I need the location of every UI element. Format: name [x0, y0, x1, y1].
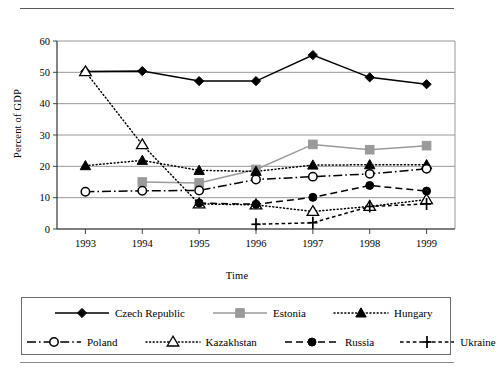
datapoint-czech-republic-1998 — [365, 73, 374, 82]
legend-label-ukraine: Ukraine — [460, 336, 495, 348]
legend-swatch-poland — [26, 334, 82, 350]
top-horizontal-rule — [20, 8, 454, 9]
legend-item-ukraine[interactable]: Ukraine — [399, 334, 498, 350]
datapoint-estonia-1994 — [138, 178, 147, 187]
xtick-label-1993: 1993 — [75, 238, 96, 249]
x-axis-title: Time — [0, 270, 474, 281]
legend-marker-poland — [50, 337, 58, 345]
datapoint-poland-1998 — [366, 170, 374, 178]
datapoint-russia-1996 — [252, 200, 260, 208]
datapoint-russia-1997 — [309, 193, 317, 201]
datapoint-estonia-1998 — [365, 145, 374, 154]
line-chart-svg: 0102030405060199319941995199619971998199… — [0, 14, 474, 264]
datapoint-russia-1995 — [195, 199, 203, 207]
legend-marker-estonia — [236, 308, 245, 317]
datapoint-poland-1997 — [309, 172, 317, 180]
datapoint-hungary-1997 — [308, 160, 318, 169]
ytick-label-10: 10 — [40, 192, 51, 203]
legend-item-estonia[interactable]: Estonia — [212, 305, 309, 321]
legend-label-kazakhstan: Kazakhstan — [206, 336, 257, 348]
datapoint-poland-1996 — [252, 175, 260, 183]
legend-label-czech-republic: Czech Republic — [115, 307, 185, 319]
legend-swatch-hungary — [333, 305, 389, 321]
datapoint-poland-1999 — [422, 165, 430, 173]
legend-row-1: Czech RepublicEstoniaHungary — [22, 298, 450, 327]
legend-swatch-kazakhstan — [145, 334, 201, 350]
legend-label-estonia: Estonia — [273, 307, 306, 319]
plot-area: 0102030405060199319941995199619971998199… — [0, 14, 474, 264]
legend-row-2: PolandKazakhstanRussiaUkraine — [22, 327, 450, 356]
bottom-horizontal-rule — [20, 362, 454, 363]
datapoint-poland-1995 — [195, 186, 203, 194]
y-axis-title: Percent of GDP — [12, 79, 23, 169]
series-line-ukraine — [256, 204, 427, 224]
legend-swatch-russia — [284, 334, 340, 350]
datapoint-poland-1994 — [138, 187, 146, 195]
xtick-label-1995: 1995 — [189, 238, 210, 249]
ytick-label-50: 50 — [40, 67, 51, 78]
legend-item-kazakhstan[interactable]: Kazakhstan — [145, 334, 260, 350]
datapoint-russia-1998 — [366, 181, 374, 189]
xtick-label-1994: 1994 — [132, 238, 154, 249]
datapoint-estonia-1997 — [309, 140, 318, 149]
xtick-label-1997: 1997 — [302, 238, 323, 249]
ytick-label-30: 30 — [40, 130, 51, 141]
ytick-label-60: 60 — [40, 36, 51, 47]
legend-marker-russia — [308, 338, 316, 346]
datapoint-estonia-1999 — [422, 141, 431, 150]
datapoint-czech-republic-1996 — [251, 77, 260, 86]
xtick-label-1998: 1998 — [359, 238, 380, 249]
chart-legend: Czech RepublicEstoniaHungary PolandKazak… — [21, 297, 451, 355]
legend-marker-czech-republic — [77, 308, 86, 317]
datapoint-czech-republic-1995 — [195, 77, 204, 86]
legend-item-poland[interactable]: Poland — [26, 334, 121, 350]
legend-label-poland: Poland — [87, 336, 118, 348]
datapoint-czech-republic-1999 — [422, 80, 431, 89]
legend-swatch-ukraine — [399, 334, 455, 350]
datapoint-poland-1993 — [81, 188, 89, 196]
legend-item-czech-republic[interactable]: Czech Republic — [54, 305, 188, 321]
legend-label-russia: Russia — [345, 336, 374, 348]
legend-marker-hungary — [356, 307, 366, 316]
legend-marker-kazakhstan — [167, 336, 179, 346]
legend-label-hungary: Hungary — [394, 307, 433, 319]
legend-item-russia[interactable]: Russia — [284, 334, 377, 350]
ytick-label-20: 20 — [40, 161, 51, 172]
legend-item-hungary[interactable]: Hungary — [333, 305, 436, 321]
datapoint-russia-1999 — [423, 187, 431, 195]
datapoint-hungary-1994 — [137, 155, 147, 164]
series-line-estonia — [142, 144, 426, 183]
xtick-label-1996: 1996 — [246, 238, 267, 249]
xtick-label-1999: 1999 — [416, 238, 437, 249]
datapoint-czech-republic-1994 — [138, 66, 147, 75]
ytick-label-0: 0 — [45, 224, 50, 235]
chart-figure: 0102030405060199319941995199619971998199… — [0, 14, 474, 354]
legend-swatch-estonia — [212, 305, 268, 321]
datapoint-czech-republic-1997 — [308, 51, 317, 60]
legend-swatch-czech-republic — [54, 305, 110, 321]
ytick-label-40: 40 — [40, 98, 51, 109]
